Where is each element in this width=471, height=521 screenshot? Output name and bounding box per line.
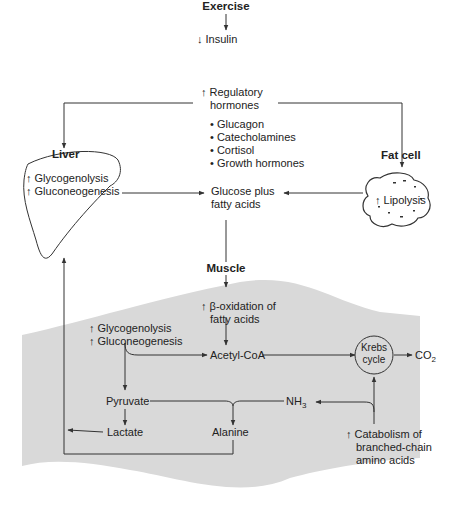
regulatory-hormones-line1: ↑ Regulatory bbox=[201, 86, 263, 99]
liver-label: Liver bbox=[52, 148, 80, 161]
hormone-item: Glucagon bbox=[210, 118, 304, 131]
hormone-item: Catecholamines bbox=[210, 131, 304, 144]
muscle-gluconeogenesis: ↑ Gluconeogenesis bbox=[89, 335, 183, 348]
nh3-label: NH3 bbox=[286, 395, 306, 408]
liver-glycogenolysis: ↑ Glycogenolysis bbox=[26, 172, 109, 185]
muscle-glycogenolysis: ↑ Glycogenolysis bbox=[89, 322, 172, 335]
regulatory-hormones-line2: hormones bbox=[210, 99, 259, 112]
hormones-list: Glucagon Catecholamines Cortisol Growth … bbox=[210, 118, 304, 170]
glucose-line2: fatty acids bbox=[211, 198, 261, 211]
krebs-line2: cycle bbox=[363, 354, 386, 366]
catabolism-line2: branched-chain bbox=[356, 441, 432, 454]
liver-shape bbox=[24, 151, 121, 258]
exercise-title: Exercise bbox=[202, 0, 249, 13]
lipolysis-label: ↑ Lipolysis bbox=[375, 194, 426, 207]
catabolism-line3: amino acids bbox=[356, 454, 415, 467]
beta-oxidation-line1: ↑ β-oxidation of bbox=[201, 300, 276, 313]
hormone-item: Cortisol bbox=[210, 144, 304, 157]
beta-oxidation-line2: fatty acids bbox=[210, 313, 260, 326]
co2-label: CO2 bbox=[415, 349, 436, 362]
hormone-item: Growth hormones bbox=[210, 157, 304, 170]
acetyl-coa-label: Acetyl-CoA bbox=[210, 349, 265, 362]
krebs-line1: Krebs bbox=[361, 342, 387, 354]
catabolism-line1: ↑ Catabolism of bbox=[346, 428, 422, 441]
pyruvate-label: Pyruvate bbox=[106, 395, 149, 408]
lactate-label: Lactate bbox=[107, 426, 143, 439]
insulin-label: ↓ Insulin bbox=[197, 33, 237, 46]
fat-cell-label: Fat cell bbox=[381, 149, 421, 162]
liver-gluconeogenesis: ↑ Gluconeogenesis bbox=[26, 185, 120, 198]
glucose-line1: Glucose plus bbox=[211, 185, 275, 198]
alanine-label: Alanine bbox=[212, 426, 249, 439]
muscle-label: Muscle bbox=[207, 262, 246, 275]
